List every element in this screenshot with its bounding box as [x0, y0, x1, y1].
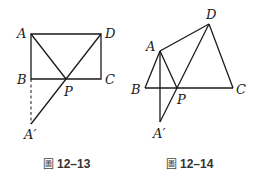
segment-dp-aprime	[160, 24, 209, 122]
diagram-canvas: A D B C P A′ 圖 12–13 A D B C P A′ 圖 12–1…	[0, 0, 260, 178]
caption-number: 12–13	[57, 157, 91, 171]
label-p: P	[63, 84, 73, 99]
rectangle-abcd	[31, 34, 101, 79]
figure-12-13	[31, 34, 101, 124]
label-a-prime: A′	[152, 126, 165, 141]
label-a-prime: A′	[23, 127, 36, 142]
label-c: C	[236, 82, 246, 97]
caption-12-13: 圖 12–13	[43, 157, 91, 171]
label-a: A	[16, 26, 26, 41]
label-c: C	[105, 72, 115, 87]
label-d: D	[104, 26, 116, 41]
segment-dc	[209, 24, 233, 88]
figure-12-14	[145, 24, 233, 122]
label-b: B	[130, 82, 141, 97]
segment-ab	[145, 51, 160, 88]
segment-ap	[31, 34, 66, 79]
figure-12-14-labels: A D B C P A′	[130, 7, 246, 141]
label-p: P	[176, 92, 186, 107]
caption-prefix: 圖	[43, 158, 54, 171]
segment-ap	[160, 51, 177, 88]
caption-prefix: 圖	[166, 158, 177, 171]
caption-12-14: 圖 12–14	[166, 157, 214, 171]
label-a: A	[145, 39, 155, 54]
label-b: B	[16, 72, 27, 87]
label-d: D	[205, 7, 217, 22]
caption-number: 12–14	[180, 157, 214, 171]
